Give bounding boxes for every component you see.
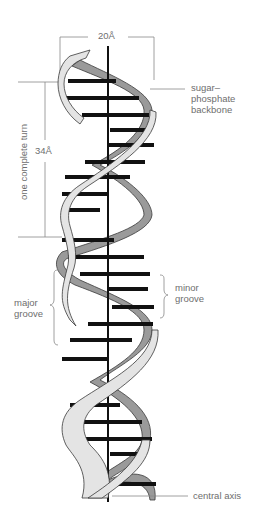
major-groove-brace	[50, 270, 58, 345]
backbone-label-line1: sugar–	[191, 82, 235, 93]
backbone-label-line3: backbone	[191, 104, 235, 115]
minor-groove-label: minor groove	[175, 282, 204, 304]
major-groove-label: major groove	[14, 297, 43, 319]
minor-groove-line2: groove	[175, 293, 204, 304]
major-groove-line1: major	[14, 297, 43, 308]
central-axis-label: central axis	[193, 490, 241, 501]
minor-groove-line1: minor	[175, 282, 204, 293]
backbone-label-line2: phosphate	[191, 93, 235, 104]
width-label: 20Å	[98, 30, 115, 41]
major-groove-line2: groove	[14, 308, 43, 319]
sugar-phosphate-backbone-label: sugar– phosphate backbone	[191, 82, 235, 115]
dna-double-helix-diagram	[0, 0, 258, 519]
minor-groove-brace	[160, 275, 168, 318]
one-complete-turn-label: one complete turn	[18, 124, 29, 200]
pitch-label: 34Å	[35, 145, 52, 156]
